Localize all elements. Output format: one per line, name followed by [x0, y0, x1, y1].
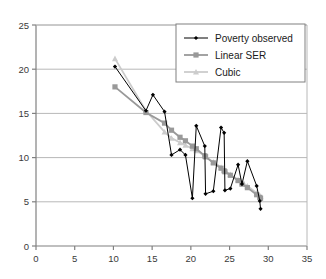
y-tick-label: 20 — [18, 64, 29, 75]
legend-label[interactable]: Linear SER — [215, 50, 266, 61]
series-poverty-observed — [113, 64, 263, 211]
y-axis-ticks: 0510152025 — [18, 20, 36, 252]
series-line — [115, 67, 261, 209]
data-point — [203, 144, 207, 148]
x-tick-label: 35 — [302, 253, 313, 264]
data-point — [228, 186, 232, 190]
y-tick-label: 0 — [24, 241, 29, 252]
data-point — [193, 52, 198, 57]
chart-svg: 0510152025 05101520253035 Poverty observ… — [0, 0, 326, 279]
x-tick-label: 15 — [147, 253, 158, 264]
legend-label[interactable]: Poverty observed — [215, 33, 293, 44]
x-tick-label: 0 — [33, 253, 38, 264]
data-point — [258, 207, 262, 211]
data-point — [194, 124, 198, 128]
data-point — [203, 192, 207, 196]
data-point — [183, 138, 188, 143]
x-tick-label: 10 — [108, 253, 119, 264]
y-tick-label: 25 — [18, 20, 29, 31]
y-tick-label: 10 — [18, 152, 29, 163]
data-point — [255, 184, 259, 188]
y-tick-label: 5 — [24, 196, 29, 207]
x-axis-ticks: 05101520253035 — [33, 246, 312, 264]
x-tick-label: 30 — [263, 253, 274, 264]
y-tick-label: 15 — [18, 108, 29, 119]
data-point — [236, 163, 240, 167]
data-point — [228, 173, 233, 178]
x-tick-label: 25 — [224, 253, 235, 264]
data-point — [219, 125, 223, 129]
data-point — [245, 159, 249, 163]
series-linear-ser — [112, 84, 263, 201]
data-point — [211, 160, 216, 165]
x-tick-label: 20 — [186, 253, 197, 264]
data-point — [222, 131, 226, 135]
data-point — [245, 185, 250, 190]
data-point — [112, 56, 118, 62]
chart-legend[interactable]: Poverty observedLinear SERCubic — [176, 24, 305, 82]
data-point — [112, 84, 117, 89]
data-point — [169, 128, 174, 133]
data-point — [203, 154, 208, 159]
data-point — [223, 188, 227, 192]
data-point — [177, 135, 182, 140]
x-tick-label: 5 — [72, 253, 77, 264]
data-point — [211, 189, 215, 193]
chart-container: 0510152025 05101520253035 Poverty observ… — [0, 0, 326, 279]
data-point — [190, 196, 194, 200]
legend-label[interactable]: Cubic — [215, 67, 241, 78]
